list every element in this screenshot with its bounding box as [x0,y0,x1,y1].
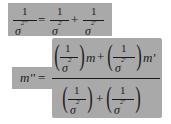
right-paren: ) [136,40,142,70]
term1-denominator: σ2 [52,22,61,38]
term2-denominator: σ2' [85,22,96,38]
num-term1-numerator: 1 [65,43,71,54]
den-term2-numerator: 1 [120,85,126,96]
left-paren: ( [62,82,68,112]
plus-sign: + [71,13,78,26]
num-term2-denominator: σ2' [115,59,126,75]
den-term1-denominator: σ2 [70,101,79,117]
term2-numerator: 1 [91,6,97,17]
equals-sign: = [38,13,45,26]
den-term2-denominator: σ2' [114,101,125,117]
right-paren: ) [79,40,85,70]
num-factor-m: m [86,51,95,64]
den-plus-sign: + [96,92,103,105]
left-paren: ( [107,40,113,70]
num-factor-m-prime: m' [143,51,155,64]
den-term1-numerator: 1 [74,85,80,96]
right-paren: ) [135,82,141,112]
left-paren: ( [54,40,60,70]
lhs-denominator: σ2'' [15,22,27,38]
right-paren: ) [87,82,93,112]
main-fraction-bar [52,78,160,79]
num-term2-numerator: 1 [121,43,127,54]
num-term1-denominator: σ2 [62,59,71,75]
term1-numerator: 1 [57,6,63,17]
left-paren: ( [106,82,112,112]
mean-equals-sign: = [38,71,45,84]
num-plus-sign: + [97,50,104,63]
mean-lhs: m'' [20,71,35,84]
lhs-numerator: 1 [22,6,28,17]
